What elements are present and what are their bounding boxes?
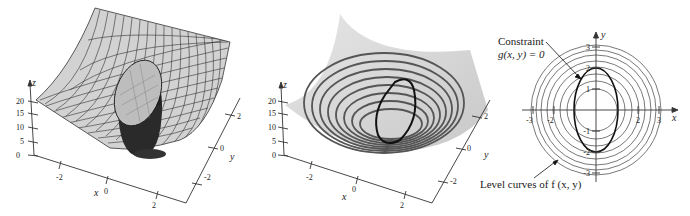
- y-tick: 1: [586, 85, 590, 94]
- z-tick: 5: [20, 137, 24, 146]
- z-tick: 10: [16, 123, 24, 132]
- y-tick: 0: [220, 144, 224, 153]
- constraint-equation: g(x, y) = 0: [498, 48, 545, 61]
- y-tick: -3: [583, 169, 590, 178]
- figure-canvas: z 0 5 10 15 20 -2 0 2 x -2 0 2 y: [0, 0, 690, 216]
- x-tick: -2: [56, 173, 63, 182]
- z-tick: 0: [272, 151, 276, 160]
- x-tick: 0: [352, 185, 356, 194]
- y-tick: 2: [484, 112, 488, 121]
- level-curves-label: Level curves of f (x, y): [480, 178, 582, 191]
- z-tick: 0: [16, 151, 20, 160]
- y-tick: -2: [450, 177, 457, 186]
- y-tick: -2: [583, 148, 590, 157]
- x-axis-label: x: [93, 187, 99, 198]
- panel-level-surface: z 0 5 10 15 20 -2 0 2 x -2 0 2 y: [268, 14, 490, 210]
- y-tick: 2: [586, 64, 590, 73]
- level-curves-arrow: [534, 160, 558, 178]
- z-tick: 5: [272, 137, 276, 146]
- z-axis-label: z: [31, 77, 36, 88]
- z-tick: 20: [268, 97, 276, 106]
- axes-2d: [522, 32, 678, 182]
- x-axis-label: x: [671, 112, 677, 123]
- z-axis-label: z: [282, 79, 287, 90]
- constraint-label: Constraint: [498, 35, 544, 47]
- y-tick: 2: [237, 112, 241, 121]
- z-tick: 15: [268, 109, 276, 118]
- x-tick: 2: [152, 201, 156, 210]
- x-axis-label: x: [341, 191, 347, 202]
- y-tick: 3: [586, 43, 590, 52]
- x-tick: 3: [657, 116, 661, 125]
- y-tick: -1: [583, 127, 590, 136]
- y-tick: -2: [204, 173, 211, 182]
- y-axis-label: y: [483, 149, 489, 160]
- panel-level-curves-2d: y x -3 -2 2 3 3 2 1 -1 -2 -3 Constraint …: [480, 29, 678, 191]
- z-tick: 20: [16, 97, 24, 106]
- z-tick: 10: [268, 123, 276, 132]
- x-tick: -3: [526, 116, 533, 125]
- x-tick: -2: [547, 116, 554, 125]
- x-tick: 0: [104, 187, 108, 196]
- x-tick: -2: [306, 173, 313, 182]
- x-tick: 2: [400, 201, 404, 210]
- z-tick: 15: [16, 109, 24, 118]
- y-axis-label: y: [229, 151, 235, 162]
- y-axis-label: y: [600, 29, 606, 40]
- panel-surface-cylinder: z 0 5 10 15 20 -2 0 2 x -2 0 2 y: [16, 8, 241, 210]
- y-tick: 0: [467, 144, 471, 153]
- x-tick: 2: [636, 116, 640, 125]
